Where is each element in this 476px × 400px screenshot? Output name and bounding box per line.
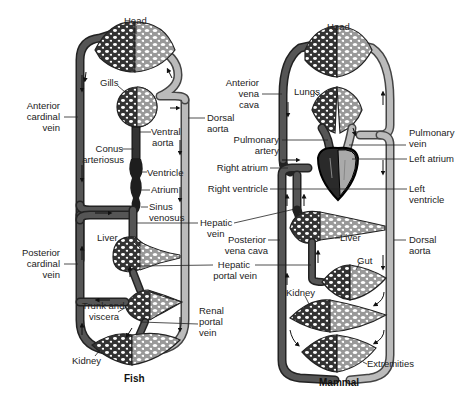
label-lungs: Lungs [294,86,320,97]
label-fish-head: Head [124,15,147,26]
svg-text:Sinus: Sinus [149,201,173,212]
caption-mammal: Mammal [319,377,359,388]
svg-text:Hepatic: Hepatic [218,259,250,270]
svg-text:vena cava: vena cava [225,245,269,256]
label-anterior-vena-cava: Anterior vena cava [226,77,260,110]
svg-text:cardinal: cardinal [27,111,60,122]
label-conus-arteriosus: Conus arteriosus [82,143,124,165]
mammal-head-capillaries [305,26,337,77]
label-mammal-dorsal-aorta: Dorsal aorta [409,234,436,256]
label-left-atrium: Left atrium [409,153,454,164]
label-pulmonary-vein: Pulmonary vein [409,127,455,149]
svg-text:aorta: aorta [409,245,431,256]
label-ventral-aorta: Ventral aorta [151,126,181,148]
label-right-atrium: Right atrium [217,162,268,173]
fish-diagram: Head Gills Anterior cardinal vein Dorsal… [22,15,257,384]
svg-text:portal vein: portal vein [213,270,257,281]
svg-text:Ventral: Ventral [151,126,181,137]
svg-text:Dorsal: Dorsal [409,234,436,245]
svg-text:vein: vein [43,122,60,133]
label-mammal-head: Head [327,21,350,32]
svg-text:viscera: viscera [89,311,120,322]
mammal-kidney [290,300,330,332]
label-renal-portal-vein: Renal portal vein [199,305,224,338]
gut [322,265,350,300]
svg-text:Posterior: Posterior [22,247,60,258]
ventral-aorta-vessel [132,127,140,159]
label-posterior-vena-cava: Posterior vena cava [225,234,269,256]
label-atrium: Atrium [151,184,179,195]
svg-text:Dorsal: Dorsal [207,112,234,123]
svg-text:Renal: Renal [199,305,224,316]
label-trunk-and-viscera: Trunk and viscera [82,300,124,322]
svg-text:Posterior: Posterior [228,234,266,245]
svg-text:vein: vein [207,228,224,239]
svg-text:venosus: venosus [149,212,185,223]
svg-text:artery: artery [255,145,280,156]
circulatory-comparison-diagram: Head Gills Anterior cardinal vein Dorsal… [0,0,476,400]
label-gills: Gills [100,77,119,88]
svg-text:cardinal: cardinal [27,258,60,269]
label-anterior-cardinal-vein: Anterior cardinal vein [27,100,60,133]
label-left-ventricle: Left ventricle [409,183,444,205]
label-fish-liver: Liver [97,232,118,243]
svg-text:Conus: Conus [96,143,124,154]
label-fish-kidney: Kidney [72,355,101,366]
svg-text:Anterior: Anterior [27,100,60,111]
svg-text:cava: cava [239,99,260,110]
svg-text:aorta: aorta [207,123,229,134]
label-extremities: Extremities [367,358,414,369]
svg-text:Hepatic: Hepatic [200,217,232,228]
svg-text:ventricle: ventricle [409,194,444,205]
svg-text:Pulmonary: Pulmonary [234,134,280,145]
label-mammal-liver: Liver [340,232,361,243]
label-right-ventricle: Right ventricle [208,183,268,194]
svg-text:arteriosus: arteriosus [82,154,124,165]
svg-text:portal: portal [199,316,223,327]
label-gut: Gut [357,255,373,266]
svg-text:Anterior: Anterior [226,77,259,88]
label-ventricle: Ventricle [147,167,183,178]
svg-text:vein: vein [43,269,60,280]
label-mammal-kidney: Kidney [286,287,315,298]
mammal-diagram: Head Lungs Anterior vena cava Pulmonary … [208,21,455,388]
svg-text:vena: vena [238,88,259,99]
svg-text:Pulmonary: Pulmonary [409,127,455,138]
label-pulmonary-artery: Pulmonary artery [234,134,280,156]
extremities-capillaries [302,335,337,372]
caption-fish: Fish [124,373,145,384]
label-posterior-cardinal-vein: Posterior cardinal vein [22,247,60,280]
fish-head-capillaries [95,22,135,72]
svg-text:Trunk and: Trunk and [82,300,124,311]
label-sinus-venosus: Sinus venosus [149,201,185,223]
label-fish-dorsal-aorta: Dorsal aorta [207,112,234,134]
svg-text:vein: vein [199,327,216,338]
svg-text:aorta: aorta [152,137,174,148]
svg-text:Left: Left [409,183,425,194]
label-hepatic-portal-vein: Hepatic portal vein [213,259,257,281]
svg-text:vein: vein [409,138,426,149]
